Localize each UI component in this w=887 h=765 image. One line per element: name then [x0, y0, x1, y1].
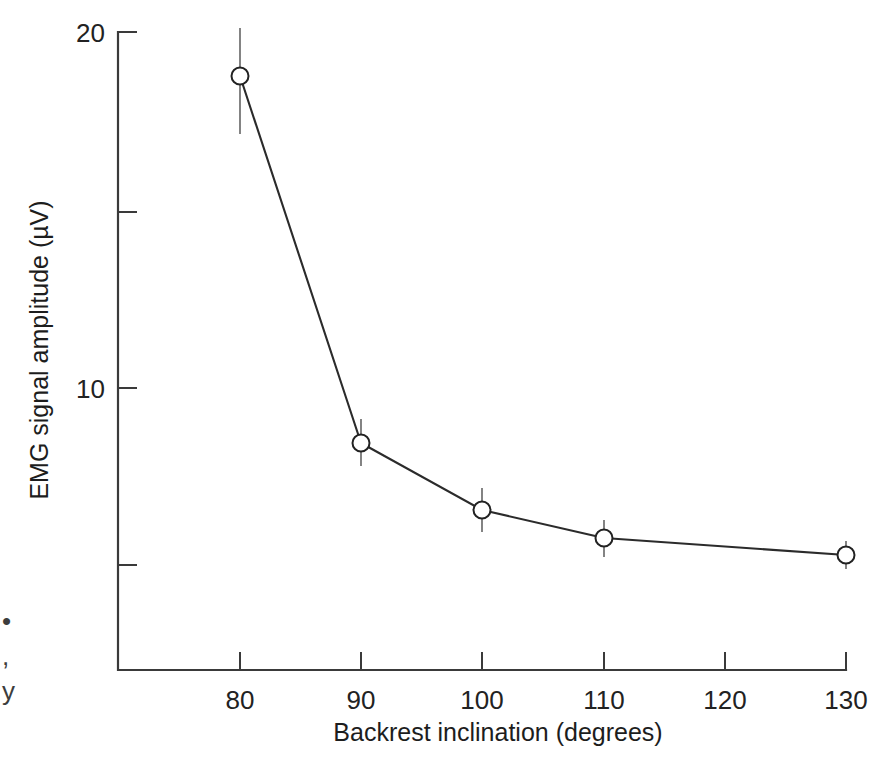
data-point-100 — [474, 502, 491, 519]
edge-fragment-1: • — [2, 606, 11, 636]
data-point-130 — [838, 547, 855, 564]
x-tick-label-130: 130 — [824, 685, 867, 715]
x-tick-label-90: 90 — [347, 685, 376, 715]
y-tick-labels-group: 20 10 — [76, 18, 105, 404]
x-tick-label-80: 80 — [226, 685, 255, 715]
y-tick-label-10: 10 — [76, 374, 105, 404]
series-group — [240, 76, 846, 555]
page-edge-fragments: • , y — [2, 606, 15, 706]
error-bars-group — [240, 28, 846, 569]
x-tick-label-110: 110 — [583, 685, 624, 715]
y-ticks-group — [118, 32, 137, 565]
x-tick-label-120: 120 — [703, 685, 746, 715]
emg-vs-backrest-inclination-chart: 20 10 80 90 100 110 120 130 — [0, 0, 887, 765]
axis-lines — [118, 32, 846, 670]
x-axis-title: Backrest inclination (degrees) — [333, 718, 662, 746]
y-axis-title: EMG signal amplitude (µV) — [25, 200, 53, 499]
x-tick-labels-group: 80 90 100 110 120 130 — [226, 685, 868, 715]
data-point-90 — [353, 435, 370, 452]
axes-group — [118, 32, 846, 670]
x-tick-label-100: 100 — [460, 685, 503, 715]
data-point-80 — [232, 68, 249, 85]
emg-series-line — [240, 76, 846, 555]
edge-fragment-2: , — [2, 641, 9, 671]
x-ticks-group — [240, 652, 846, 670]
data-point-110 — [596, 530, 613, 547]
y-tick-label-20: 20 — [76, 18, 105, 48]
figure-panel: 20 10 80 90 100 110 120 130 — [0, 0, 887, 765]
markers-group — [232, 68, 855, 564]
edge-fragment-3: y — [2, 676, 15, 706]
